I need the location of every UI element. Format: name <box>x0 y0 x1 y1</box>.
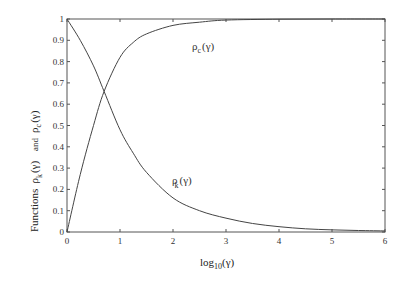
y-tick-label: 0.7 <box>53 78 65 88</box>
plot-border <box>67 19 385 232</box>
y-tick-label: 0.1 <box>53 206 64 216</box>
chart: 0123456 00.10.20.30.40.50.60.70.80.91 ρc… <box>0 0 408 282</box>
y-tick-label: 0.3 <box>53 163 65 173</box>
y-axis-label: Functionsρk(γ)andρc(γ) <box>28 110 44 232</box>
curve-rho-c <box>67 19 385 232</box>
x-tick-label: 1 <box>118 236 123 246</box>
x-tick-label: 3 <box>224 236 229 246</box>
curve-label-rho-c: ρc(γ) <box>192 40 215 55</box>
x-tick-label: 6 <box>383 236 388 246</box>
y-tick-label: 0.5 <box>53 121 65 131</box>
y-tick-label: 0.9 <box>53 35 65 45</box>
y-axis-ticks: 00.10.20.30.40.50.60.70.80.91 <box>53 14 385 237</box>
x-axis-ticks: 0123456 <box>65 19 388 246</box>
y-tick-label: 0.4 <box>53 142 65 152</box>
x-axis-label: log10(γ) <box>200 256 235 271</box>
x-tick-label: 2 <box>171 236 176 246</box>
x-tick-label: 5 <box>330 236 335 246</box>
curves <box>67 19 385 232</box>
y-tick-label: 0.2 <box>53 184 64 194</box>
x-tick-label: 0 <box>65 236 70 246</box>
x-tick-label: 4 <box>277 236 282 246</box>
y-tick-label: 0.6 <box>53 99 65 109</box>
curve-rho-k <box>67 19 385 231</box>
curve-label-rho-k: ρk(γ) <box>172 174 192 190</box>
y-tick-label: 0 <box>60 227 65 237</box>
y-tick-label: 1 <box>60 14 65 24</box>
plot-frame <box>67 19 385 232</box>
y-tick-label: 0.8 <box>53 57 65 67</box>
